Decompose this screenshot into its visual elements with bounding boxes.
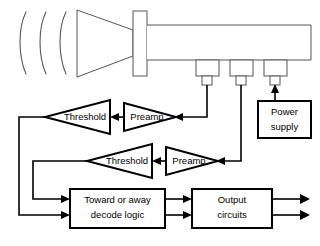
output-circuits-label-line2: circuits bbox=[217, 209, 247, 220]
output-arrowhead-1 bbox=[300, 194, 310, 204]
decode-to-output-arrowhead-1 bbox=[183, 195, 192, 203]
probe-2-neck bbox=[236, 76, 246, 85]
probe-1 bbox=[196, 60, 219, 85]
probe1-to-preamp-wire bbox=[180, 85, 207, 117]
decode-logic-label-line2: decode logic bbox=[91, 209, 145, 220]
decode-to-output-arrowhead-2 bbox=[183, 211, 192, 219]
diagram-canvas: Power supply Preamp Threshold Preamp Thr… bbox=[0, 0, 320, 246]
preamp-upper-to-threshold-arrowhead bbox=[110, 113, 119, 121]
preamp-upper-label: Preamp bbox=[130, 111, 163, 122]
preamp-lower-to-threshold-arrowhead bbox=[152, 157, 161, 165]
threshold-lower-label: Threshold bbox=[106, 155, 148, 166]
decode-logic-label-line1: Toward or away bbox=[84, 194, 151, 205]
output-circuits-label-line1: Output bbox=[218, 194, 247, 205]
probe-1-neck bbox=[202, 76, 212, 85]
output-arrowhead-2 bbox=[300, 210, 310, 220]
horn-antenna bbox=[77, 10, 133, 77]
threshold-lower-to-decode-arrowhead bbox=[61, 195, 70, 203]
threshold-upper-to-decode-arrowhead bbox=[61, 211, 70, 219]
threshold-upper-label: Threshold bbox=[64, 111, 106, 122]
preamp-lower-label: Preamp bbox=[172, 155, 205, 166]
probe-2-body bbox=[230, 60, 253, 76]
probe-3 bbox=[264, 60, 287, 85]
waveguide-flange bbox=[133, 11, 147, 76]
wave-arc-2 bbox=[40, 12, 46, 74]
wave-arc-3 bbox=[60, 12, 66, 74]
probe-3-body bbox=[264, 60, 287, 76]
probe-2 bbox=[230, 60, 253, 85]
threshold-upper-to-decode-wire bbox=[19, 117, 64, 215]
power-supply-label-line1: Power bbox=[271, 106, 298, 117]
power-supply-label-line2: supply bbox=[271, 121, 299, 132]
probe2-to-preamp-wire bbox=[222, 85, 241, 161]
wave-arc-1 bbox=[20, 12, 26, 74]
incoming-wave-arcs bbox=[20, 12, 66, 74]
doppler-radar-block-diagram: Power supply Preamp Threshold Preamp Thr… bbox=[0, 0, 320, 246]
probe-3-neck bbox=[270, 76, 280, 85]
probe-1-body bbox=[196, 60, 219, 76]
waveguide bbox=[147, 25, 311, 60]
